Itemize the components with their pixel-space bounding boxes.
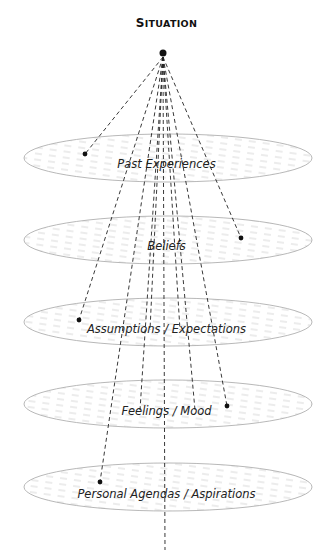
dashed-ray <box>150 57 163 330</box>
dashed-ray <box>163 57 180 330</box>
layer-label-personal-agendas: Personal Agendas / Aspirations <box>0 487 333 501</box>
layer-dot <box>83 152 88 157</box>
title-initial: S <box>136 16 145 30</box>
diagram-canvas <box>0 0 333 550</box>
layer-label-feelings-mood: Feelings / Mood <box>0 404 333 418</box>
layer-label-assumptions-expectations: Assumptions / Expectations <box>0 322 333 336</box>
layer-dot <box>98 480 103 485</box>
title-rest: ITUATION <box>145 18 198 29</box>
situation-source-dot <box>160 50 167 57</box>
dashed-ray <box>79 57 163 320</box>
diagram-title: SITUATION <box>0 16 333 30</box>
layer-label-beliefs: Beliefs <box>0 239 333 253</box>
layer-label-past-experiences: Past Experiences <box>0 157 333 171</box>
